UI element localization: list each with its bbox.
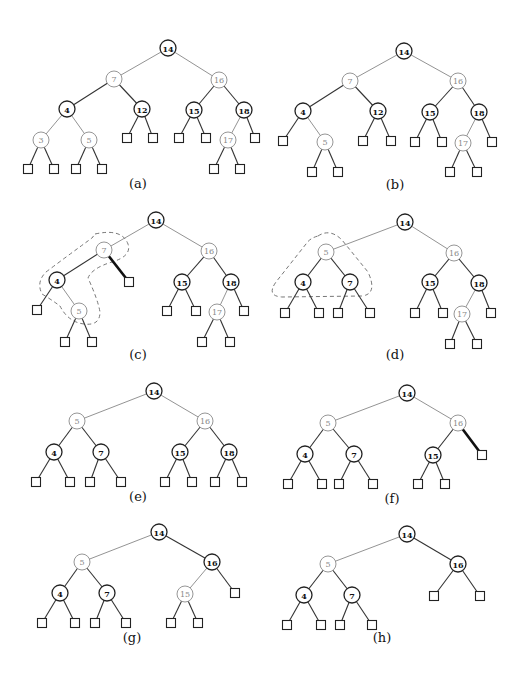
tree-node-18: 18 [221,444,237,460]
panel-caption: (a) [129,176,147,191]
nil-leaf [369,480,378,489]
tree-node-14: 14 [160,40,176,56]
nil-leaf [238,478,247,487]
nil-leaf [284,480,293,489]
panel-d: 1451647151817(d) [272,214,495,362]
tree-node-14: 14 [397,214,413,230]
tree-edge [407,393,458,423]
tree-edge [328,534,407,564]
node-key: 4 [51,448,57,458]
nil-leaf [317,621,326,630]
node-key: 4 [301,591,307,601]
tree-node-17: 17 [220,132,236,148]
tree-node-16: 16 [450,556,466,572]
node-key: 16 [449,249,459,258]
tree-node-14: 14 [148,212,164,228]
tree-edge [82,532,159,562]
nil-leaf [441,480,450,489]
node-key: 3 [38,136,43,145]
node-key: 12 [136,105,147,115]
node-key: 5 [76,307,81,316]
nil-leaf [251,134,260,143]
tree-node-15: 15 [422,274,438,290]
tree-node-7: 7 [344,587,360,603]
tree-edge [159,532,212,562]
nil-leaf [487,309,496,318]
nil-leaf [279,137,288,146]
node-key: 15 [424,108,435,118]
tree-node-7: 7 [93,444,109,460]
nil-leaf [335,480,344,489]
panel-g: 145164715(g) [38,524,240,645]
node-key: 12 [372,107,383,117]
nil-leaf [86,478,95,487]
nil-leaf [98,165,107,174]
nil-leaf [211,478,220,487]
nil-leaf [192,307,201,316]
tree-node-5: 5 [318,244,334,260]
panel-caption: (h) [373,630,392,645]
tree-node-16: 16 [201,243,217,259]
tree-edge [104,220,156,250]
tree-node-14: 14 [399,385,415,401]
nil-leaf [439,309,448,318]
tree-node-4: 4 [295,274,311,290]
nil-leaf [202,134,211,143]
nil-leaf [411,138,420,147]
node-key: 14 [150,216,162,226]
tree-edge [168,48,219,80]
tree-node-15: 15 [177,586,193,602]
panel-h: 1451647(h) [283,526,485,645]
node-key: 16 [200,417,210,426]
nil-leaf [318,480,327,489]
nil-leaf [438,138,447,147]
nil-leaf [32,478,41,487]
node-key: 4 [300,278,306,288]
nil-leaf [240,307,249,316]
nil-leaf [236,165,245,174]
node-key: 17 [223,136,233,145]
nil-leaf [167,619,176,628]
tree-node-16: 16 [446,245,462,261]
tree-edge [114,48,168,79]
node-key: 17 [212,308,222,317]
tree-node-5: 5 [74,554,90,570]
tree-edge [407,534,458,564]
tree-node-7: 7 [106,71,122,87]
tree-edge [156,220,209,251]
node-key: 17 [457,310,467,319]
node-key: 14 [153,528,165,538]
tree-node-14: 14 [396,43,412,59]
nil-leaf [478,451,487,460]
node-key: 14 [399,218,411,228]
tree-node-17: 17 [455,135,471,151]
tree-node-7: 7 [99,585,115,601]
nil-leaf [38,619,47,628]
tree-node-17: 17 [454,306,470,322]
tree-node-5: 5 [81,132,97,148]
nil-leaf [473,340,482,349]
nil-leaf [71,619,80,628]
nil-leaf [194,619,203,628]
tree-node-5: 5 [317,134,333,150]
nil-leaf [446,340,455,349]
tree-edge [328,393,407,423]
panel-caption: (e) [129,489,147,504]
nil-leaf [446,168,455,177]
tree-node-15: 15 [174,274,190,290]
nil-leaf [117,478,126,487]
node-key: 16 [453,419,463,428]
nil-leaf [50,165,59,174]
nil-leaf [163,307,172,316]
nil-leaf [149,134,158,143]
nil-leaf [88,338,97,347]
node-key: 4 [54,276,60,286]
tree-node-15: 15 [186,102,202,118]
tree-node-16: 16 [450,73,466,89]
tree-node-14: 14 [399,526,415,542]
panel-f: 145164715(f) [284,385,487,506]
node-key: 15 [427,451,438,461]
tree-node-16: 16 [211,72,227,88]
nil-leaf [283,621,292,630]
nil-leaf [334,168,343,177]
